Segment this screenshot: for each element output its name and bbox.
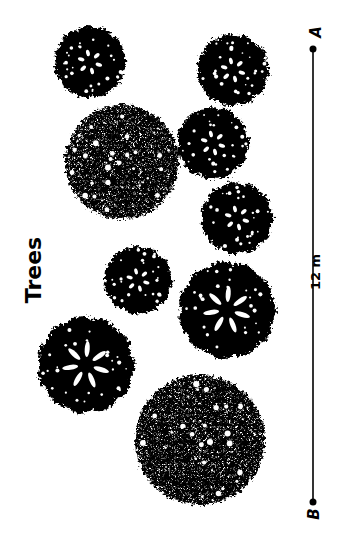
tree-symbol xyxy=(55,26,127,98)
point-a-marker xyxy=(310,46,317,53)
tree-symbol xyxy=(179,261,276,358)
tree-symbol xyxy=(38,316,135,413)
diagram-title: Trees xyxy=(19,230,49,310)
trees-layer xyxy=(38,26,276,505)
tree-symbol xyxy=(202,182,274,254)
tree-symbol xyxy=(65,105,179,219)
tree-symbol xyxy=(105,246,173,314)
tree-symbol xyxy=(178,107,250,179)
tree-symbol xyxy=(135,375,265,505)
tree-plan-diagram xyxy=(0,0,342,546)
tree-symbol xyxy=(198,34,270,106)
point-b-label: B xyxy=(304,504,324,524)
point-a-label: A xyxy=(306,22,326,42)
scale-length-label: 12 m xyxy=(306,250,326,294)
